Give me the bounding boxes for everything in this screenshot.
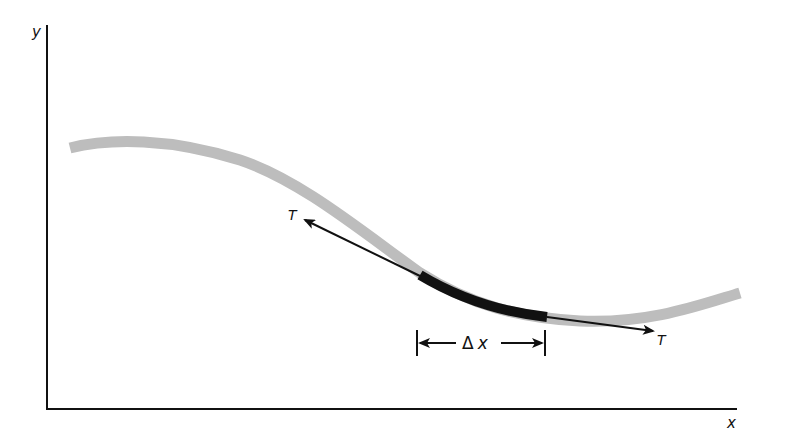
- delta-x-interval: Δx: [417, 330, 545, 356]
- y-axis-label: y: [31, 23, 42, 41]
- string-tension-diagram: y x T T Δx: [0, 0, 785, 438]
- x-axis-label: x: [726, 414, 736, 432]
- string-segment: [420, 275, 547, 317]
- tangent-left-label: T: [288, 207, 298, 223]
- interval-variable: x: [477, 333, 489, 353]
- delta-symbol: Δ: [462, 333, 474, 353]
- tangent-left: T: [288, 207, 420, 276]
- interval-label: Δx: [462, 333, 489, 353]
- axes: y x: [31, 23, 737, 432]
- string-curve: [70, 142, 740, 322]
- tangent-right-label: T: [657, 332, 667, 348]
